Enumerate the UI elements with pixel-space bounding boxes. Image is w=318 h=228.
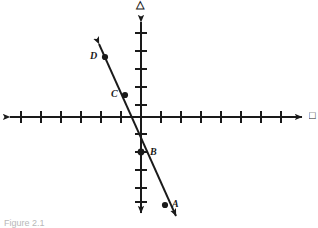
plotted-points: [102, 54, 168, 208]
x-axis: [10, 111, 302, 123]
point-B-marker: [138, 149, 145, 156]
point-A-marker: [162, 202, 168, 208]
coordinate-plane-graphic: [0, 0, 318, 228]
point-label-D: D: [90, 51, 97, 61]
figure-caption: Figure 2.1: [4, 219, 45, 228]
y-axis-label: △: [136, 0, 144, 10]
point-C-marker: [122, 92, 128, 98]
figure-container: D C B A △ □ Figure 2.1: [0, 0, 318, 228]
point-label-B: B: [150, 147, 157, 157]
point-D-marker: [102, 54, 108, 60]
point-label-C: C: [111, 89, 118, 99]
x-axis-label: □: [309, 110, 318, 121]
point-label-A: A: [172, 199, 179, 209]
